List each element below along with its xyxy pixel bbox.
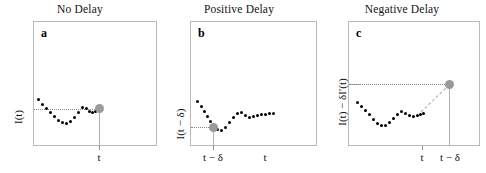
panel-c-extrapolation-line (318, 0, 486, 173)
panel-b-xtick-t: t (254, 151, 276, 163)
panel-a-title: No Delay (0, 3, 160, 15)
panel-c-extrapolated-marker (445, 80, 454, 89)
panel-b-evaluation-marker (209, 123, 218, 132)
panel-a-tick (99, 146, 100, 150)
panel-b-letter: b (198, 26, 205, 41)
panel-a-frame (33, 21, 157, 146)
panel-b-title: Positive Delay (160, 3, 318, 15)
panel-a-ylabel: I(t) (12, 97, 24, 137)
panel-b-ylabel: I(t − δ) (174, 92, 186, 156)
panel-b-tick (213, 146, 214, 150)
panel-c-xtick-t-minus-delta: t − δ (428, 151, 472, 163)
delay-figure: No Delay a I(t) t Positive Delay b (0, 0, 486, 173)
panel-a-evaluation-marker (95, 104, 104, 113)
panel-c: Negative Delay c I(t) − δI′(t) t (318, 0, 486, 173)
panel-a-x-guide (99, 109, 100, 146)
panel-a-letter: a (41, 26, 47, 41)
panel-c-tick-t (422, 146, 423, 150)
panel-a: No Delay a I(t) t (0, 0, 160, 173)
panel-b: Positive Delay b I(t − δ) t − δ t (160, 0, 318, 173)
panel-b-xtick-t-minus-delta: t − δ (191, 151, 235, 163)
panel-a-xtick-t: t (84, 151, 114, 163)
